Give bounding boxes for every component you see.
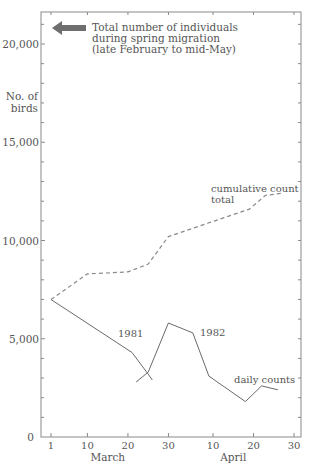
y-axis-title: No. of	[6, 90, 39, 102]
y-axis-title: birds	[11, 102, 38, 114]
series-1981	[51, 300, 152, 381]
y-tick-label: 0	[27, 431, 34, 443]
x-tick-label: 20	[247, 440, 260, 451]
x-tick-label: 10	[207, 440, 220, 451]
x-tick-label: 1	[48, 440, 54, 451]
series-label-1981: 1981	[118, 328, 143, 339]
y-tick-label: 10,000	[2, 235, 39, 247]
data-series	[51, 193, 282, 401]
month-label: April	[219, 451, 247, 463]
daily-counts-label: daily counts	[234, 374, 295, 385]
legend-annotation-text: (late February to mid-May)	[92, 43, 236, 55]
y-tick-label: 15,000	[2, 136, 39, 148]
annotations: Total number of individualsduring spring…	[52, 21, 299, 385]
x-tick-label: 30	[288, 440, 301, 451]
y-tick-label: 5,000	[9, 333, 39, 345]
migration-chart: 05,00010,00015,00020,000No. ofbirds 1102…	[0, 0, 311, 466]
x-tick-label: 20	[122, 440, 135, 451]
cumulative-label: cumulative count	[211, 183, 299, 194]
x-axis-labels: 1102030102030MarchApril	[48, 440, 301, 463]
x-tick-label: 30	[162, 440, 175, 451]
y-axis-labels: 05,00010,00015,00020,000No. ofbirds	[2, 38, 39, 443]
left-arrow-icon	[52, 21, 86, 35]
x-tick-label: 10	[81, 440, 94, 451]
series-cumulative-count-total	[51, 193, 282, 299]
series-label-1982: 1982	[200, 327, 225, 338]
y-tick-label: 20,000	[2, 38, 39, 50]
cumulative-label: total	[211, 194, 234, 205]
month-label: March	[90, 451, 125, 463]
